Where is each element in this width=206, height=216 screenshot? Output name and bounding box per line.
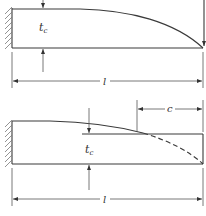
thickness-label: tc: [85, 143, 93, 157]
length-label: l: [103, 194, 106, 205]
thickness-label: tc: [39, 21, 47, 35]
wall-support-icon: [5, 120, 12, 167]
beam-diagram: tc l tc: [0, 0, 206, 216]
top-figure: tc l: [5, 0, 204, 88]
bottom-figure: tc c l: [5, 100, 203, 206]
beam-profile-dashed: [143, 133, 203, 164]
length-label: l: [103, 76, 106, 87]
wall-support-icon: [5, 7, 12, 49]
beam-profile-solid: [12, 121, 143, 133]
segment-label: c: [167, 103, 173, 114]
